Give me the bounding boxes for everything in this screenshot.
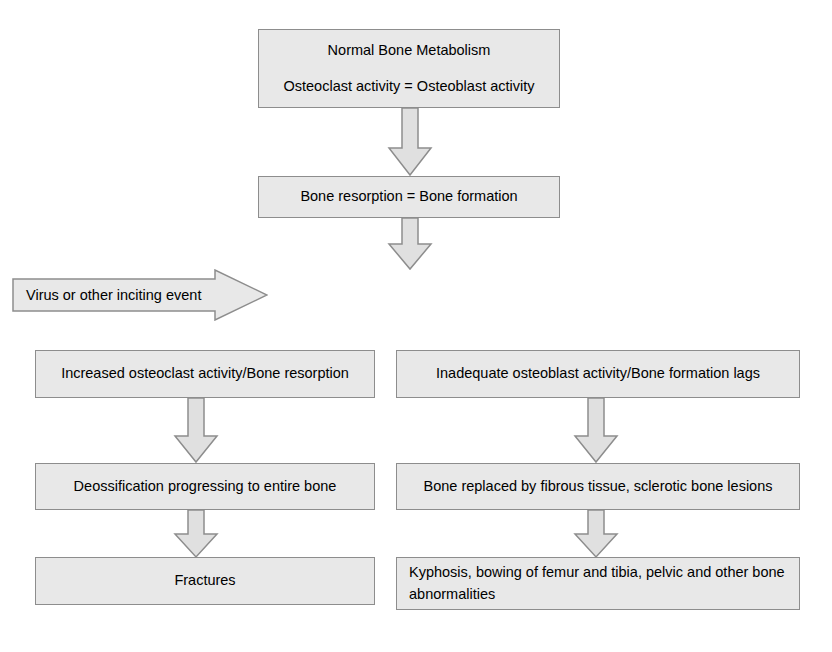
arrow-osteoclast-to-deossification — [174, 398, 218, 463]
node-increased-osteoclast-activity-label: Increased osteoclast activity/Bone resor… — [61, 363, 349, 384]
node-kyphosis-bone-abnormalities-label: Kyphosis, bowing of femur and tibia, pel… — [409, 562, 791, 604]
node-inadequate-osteoblast-activity-label: Inadequate osteoblast activity/Bone form… — [436, 363, 760, 384]
node-fractures: Fractures — [35, 557, 375, 605]
node-fractures-label: Fractures — [174, 570, 235, 591]
node-deossification: Deossification progressing to entire bon… — [35, 463, 375, 510]
node-bone-resorption-equals-formation: Bone resorption = Bone formation — [258, 176, 560, 218]
arrow-inciting-event: Virus or other inciting event — [12, 269, 268, 321]
node-bone-replaced-fibrous-tissue: Bone replaced by fibrous tissue, sclerot… — [396, 463, 800, 510]
node-kyphosis-bone-abnormalities: Kyphosis, bowing of femur and tibia, pel… — [396, 557, 800, 610]
arrow-deossification-to-fractures — [174, 510, 218, 558]
arrow-fibrous-to-kyphosis — [574, 510, 618, 558]
arrow-inciting-event-label: Virus or other inciting event — [26, 269, 201, 321]
node-deossification-label: Deossification progressing to entire bon… — [74, 476, 337, 497]
node-increased-osteoclast-activity: Increased osteoclast activity/Bone resor… — [35, 350, 375, 398]
node-normal-bone-metabolism: Normal Bone Metabolism Osteoclast activi… — [258, 29, 560, 108]
node-inadequate-osteoblast-activity: Inadequate osteoblast activity/Bone form… — [396, 350, 800, 398]
node-normal-bone-metabolism-line-1: Normal Bone Metabolism — [328, 40, 491, 61]
arrow-resorption-to-split — [388, 218, 432, 270]
flowchart-diagram: Normal Bone Metabolism Osteoclast activi… — [0, 0, 832, 652]
node-bone-replaced-fibrous-tissue-label: Bone replaced by fibrous tissue, sclerot… — [424, 476, 773, 497]
arrow-metabolism-to-resorption — [388, 108, 432, 176]
node-bone-resorption-equals-formation-label: Bone resorption = Bone formation — [300, 186, 517, 207]
arrow-osteoblast-to-fibrous — [574, 398, 618, 463]
node-normal-bone-metabolism-line-2: Osteoclast activity = Osteoblast activit… — [283, 76, 534, 97]
